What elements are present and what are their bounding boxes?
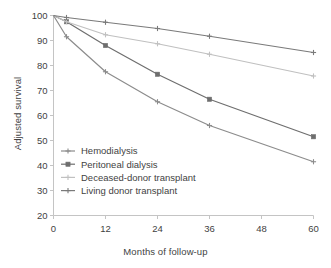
x-tick-label: 36 <box>204 223 215 234</box>
x-tick-label: 60 <box>308 223 319 234</box>
y-tick-label: 40 <box>37 160 48 171</box>
legend-item[interactable]: Deceased-donor transplant <box>61 172 196 183</box>
legend-label: Deceased-donor transplant <box>81 172 196 183</box>
legend-item[interactable]: Hemodialysis <box>61 145 138 156</box>
chart-plot-area: 2030405060708090100 01224364860 Hemodial… <box>0 0 331 268</box>
y-tick-label: 20 <box>37 210 48 221</box>
x-axis-title: Months of follow-up <box>0 246 331 257</box>
legend-label: Peritoneal dialysis <box>81 159 158 170</box>
y-tick-label: 60 <box>37 110 48 121</box>
legend-item[interactable]: Peritoneal dialysis <box>61 159 158 170</box>
x-tick-label: 24 <box>152 223 163 234</box>
x-axis: 01224364860 <box>51 216 319 234</box>
y-tick-label: 50 <box>37 135 48 146</box>
survival-chart-figure: 2030405060708090100 01224364860 Hemodial… <box>0 0 331 268</box>
y-axis: 2030405060708090100 <box>32 10 54 221</box>
data-series-group <box>54 15 317 164</box>
legend-label: Hemodialysis <box>81 145 138 156</box>
x-tick-label: 48 <box>256 223 267 234</box>
x-tick-label: 12 <box>100 223 111 234</box>
x-tick-label: 0 <box>51 223 56 234</box>
y-tick-label: 90 <box>37 35 48 46</box>
chart-legend: HemodialysisPeritoneal dialysisDeceased-… <box>61 145 196 196</box>
legend-item[interactable]: Living donor transplant <box>61 185 177 196</box>
y-tick-label: 30 <box>37 185 48 196</box>
y-tick-label: 100 <box>32 10 48 21</box>
data-series <box>54 16 316 139</box>
y-axis-title: Adjusted survival <box>12 59 23 169</box>
legend-label: Living donor transplant <box>81 185 177 196</box>
y-tick-label: 70 <box>37 85 48 96</box>
y-tick-label: 80 <box>37 60 48 71</box>
